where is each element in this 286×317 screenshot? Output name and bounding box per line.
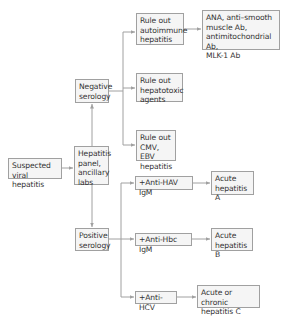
node-acute-or-chronic-hepatitis-c: Acute or chronic hepatitis C (197, 285, 260, 308)
node-rule-out-autoimmune: Rule out autoimmune hepatitis (136, 13, 184, 45)
node-acute-hepatitis-a: Acute hepatitis A (211, 171, 254, 195)
hepatitis-workup-flowchart: Suspected viral hepatitis Hepatitis pane… (0, 0, 286, 317)
node-hepatitis-panel: Hepatitis panel, ancillary labs (74, 146, 109, 185)
node-negative-serology: Negative serology (75, 79, 109, 103)
node-acute-hepatitis-b: Acute hepatitis B (211, 228, 253, 251)
node-anti-hbc-igm: +Anti-Hbc IgM (135, 233, 192, 246)
node-positive-serology: Positive serology (75, 228, 109, 251)
node-rule-out-hepatotoxic: Rule out hepatotoxic agents (136, 73, 183, 102)
node-rule-out-cmv-ebv: Rule out CMV, EBV hepatitis (136, 130, 176, 161)
node-anti-hav-igm: +Anti-HAV IgM (135, 176, 193, 190)
node-suspected-viral-hepatitis: Suspected viral hepatitis (8, 158, 62, 179)
node-autoantibodies: ANA, anti–smooth muscle Ab, antimitochon… (202, 10, 280, 50)
node-anti-hcv: +Anti-HCV (135, 291, 177, 304)
